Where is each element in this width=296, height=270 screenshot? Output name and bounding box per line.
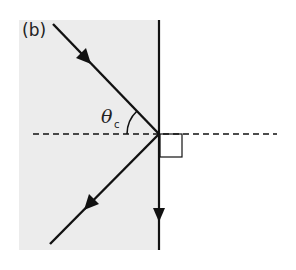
- panel-label: (b): [22, 22, 46, 39]
- right-angle-marker: [160, 134, 182, 157]
- total-internal-reflection-diagram: [0, 0, 296, 270]
- medium-region: [19, 20, 159, 250]
- critical-angle-subscript: c: [114, 120, 120, 130]
- critical-angle-symbol: θ: [101, 107, 112, 126]
